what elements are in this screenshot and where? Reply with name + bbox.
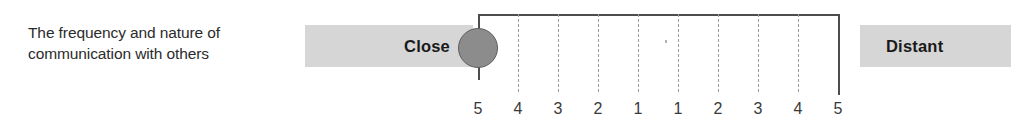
scale-tick-line bbox=[598, 14, 599, 92]
scale-tick-label: 3 bbox=[754, 100, 763, 118]
scan-speck bbox=[665, 40, 667, 43]
scale-tick-label: 3 bbox=[554, 100, 563, 118]
scale-tick-label: 1 bbox=[674, 100, 683, 118]
scale-tick-label: 5 bbox=[474, 100, 483, 118]
scale-tick-label: 1 bbox=[634, 100, 643, 118]
scale-tick-line bbox=[678, 14, 679, 92]
scale-tick-line bbox=[638, 14, 639, 92]
selected-response-marker[interactable] bbox=[458, 28, 498, 68]
scale-tick-label: 4 bbox=[514, 100, 523, 118]
scale-tick-line bbox=[718, 14, 719, 92]
rating-scale[interactable]: 5432112345 bbox=[0, 0, 1011, 139]
scale-tick-line bbox=[558, 14, 559, 92]
scale-tick-line bbox=[798, 14, 799, 92]
scale-tick-line bbox=[758, 14, 759, 92]
semantic-differential-row: The frequency and nature of communicatio… bbox=[0, 0, 1011, 139]
scale-tick-label: 2 bbox=[594, 100, 603, 118]
scale-tick-label: 4 bbox=[794, 100, 803, 118]
scale-tick-label: 2 bbox=[714, 100, 723, 118]
scale-rail bbox=[478, 14, 838, 16]
scale-tick-line bbox=[518, 14, 519, 92]
scale-tick-label: 5 bbox=[834, 100, 843, 118]
scale-tick-line bbox=[838, 14, 840, 95]
